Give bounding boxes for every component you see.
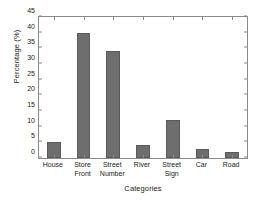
y-axis-title: Percentage (%) (12, 0, 21, 117)
x-tick-label: Car (196, 161, 207, 170)
x-tick-mark-top (232, 17, 233, 20)
bars-layer (39, 17, 247, 158)
x-tick-label-line: Car (196, 161, 207, 170)
x-tick-label-line: Street (162, 161, 181, 170)
x-tick-label: StreetNumber (100, 161, 125, 178)
x-tick-mark-top (113, 17, 114, 20)
plot-area: 051015202530354045 (38, 16, 248, 159)
x-tick-mark (173, 155, 174, 158)
x-tick-label-line: Front (74, 170, 91, 179)
bar (166, 120, 180, 158)
x-axis-title: Categories (38, 184, 248, 193)
x-tick-label-line: House (43, 161, 63, 170)
x-tick-label: StreetSign (162, 161, 181, 178)
y-tick-label: 25 (27, 69, 39, 76)
x-tick-mark (84, 155, 85, 158)
bar (77, 33, 91, 158)
x-tick-label: River (134, 161, 150, 170)
y-tick-label: 35 (27, 38, 39, 45)
x-tick-label: House (43, 161, 63, 170)
x-tick-label-line: River (134, 161, 150, 170)
x-tick-mark (54, 155, 55, 158)
x-tick-label-line: Street (100, 161, 125, 170)
y-tick-label: 0 (31, 148, 39, 155)
x-tick-label-line: Store (74, 161, 91, 170)
y-tick-label: 10 (27, 116, 39, 123)
bar (106, 51, 120, 158)
x-tick-label-line: Road (223, 161, 240, 170)
y-tick-label: 30 (27, 54, 39, 61)
x-tick-mark (143, 155, 144, 158)
x-tick-mark-top (143, 17, 144, 20)
bar-chart-figure: Percentage (%) 051015202530354045 HouseS… (0, 0, 265, 201)
x-tick-mark (202, 155, 203, 158)
y-tick-label: 40 (27, 22, 39, 29)
x-tick-label-line: Sign (162, 170, 181, 179)
x-axis-tick-labels: HouseStoreFrontStreetNumberRiverStreetSi… (38, 161, 248, 183)
y-tick-label: 15 (27, 101, 39, 108)
x-tick-label: Road (223, 161, 240, 170)
x-tick-mark-top (202, 17, 203, 20)
x-tick-label-line: Number (100, 170, 125, 179)
y-tick-label: 20 (27, 85, 39, 92)
x-tick-mark-top (173, 17, 174, 20)
x-tick-mark (113, 155, 114, 158)
x-tick-mark-top (84, 17, 85, 20)
y-tick-label: 45 (27, 7, 39, 14)
x-tick-label: StoreFront (74, 161, 91, 178)
x-tick-mark (232, 155, 233, 158)
y-tick-label: 5 (31, 132, 39, 139)
x-tick-mark-top (54, 17, 55, 20)
